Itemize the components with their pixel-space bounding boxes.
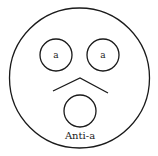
chevron-line	[53, 78, 108, 93]
bottom-circle	[64, 95, 96, 127]
bottom-circle-label: Anti-a	[64, 130, 95, 141]
right-circle-label: a	[100, 50, 106, 60]
left-circle-label: a	[53, 50, 59, 60]
diagram-canvas: a a Anti-a	[0, 0, 158, 156]
